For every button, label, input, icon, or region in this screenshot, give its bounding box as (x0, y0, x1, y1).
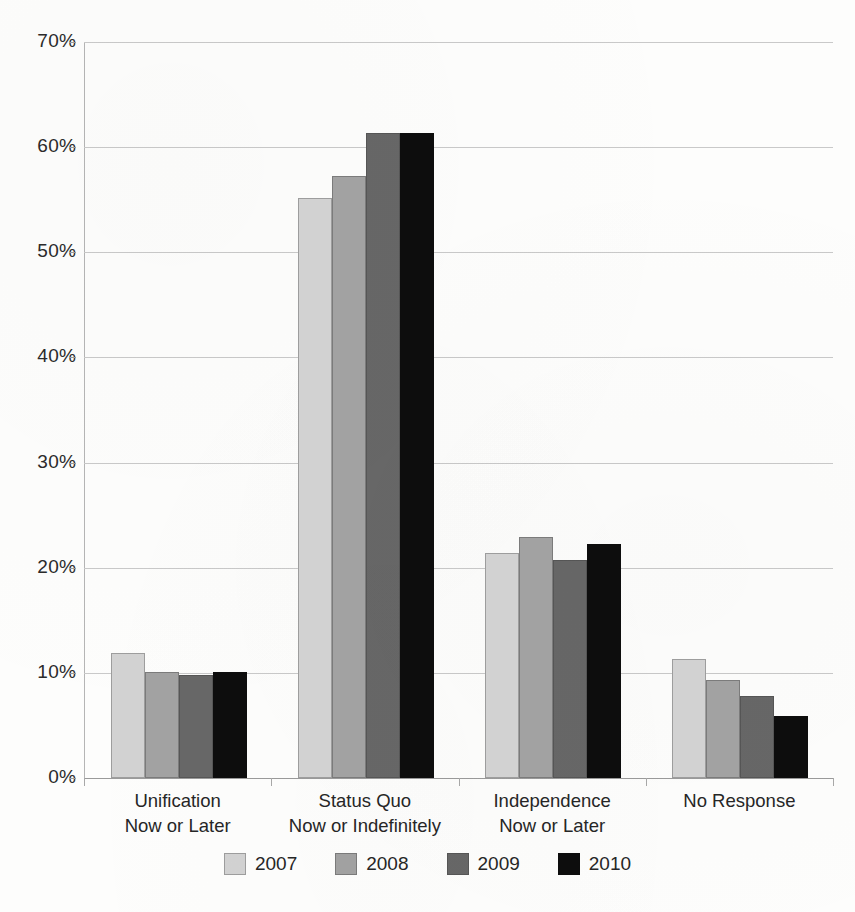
legend-label: 2007 (255, 853, 297, 875)
y-tick-label: 70% (6, 30, 76, 52)
legend: 2007200820092010 (0, 853, 855, 875)
category-tick (271, 778, 272, 786)
category-label-line1: No Response (646, 788, 833, 813)
y-tick-mark (69, 463, 76, 464)
y-tick-mark (69, 778, 76, 779)
y-tick-mark (69, 673, 76, 674)
category-label: IndependenceNow or Later (459, 788, 646, 838)
category-label-line2: Now or Later (459, 813, 646, 838)
category-tick (646, 778, 647, 786)
bar-2009-cat2 (553, 560, 587, 778)
legend-item-2008[interactable]: 2008 (335, 853, 408, 875)
legend-item-2007[interactable]: 2007 (224, 853, 297, 875)
bar-2008-cat0 (145, 672, 179, 778)
y-tick-label: 40% (6, 345, 76, 367)
y-tick-label: 0% (6, 766, 76, 788)
bar-2008-cat3 (706, 680, 740, 778)
category-tick (459, 778, 460, 786)
y-tick-mark (69, 357, 76, 358)
category-label-line2: Now or Later (84, 813, 271, 838)
bar-2007-cat1 (298, 198, 332, 778)
legend-label: 2008 (366, 853, 408, 875)
bar-2007-cat2 (485, 553, 519, 778)
category-label-line1: Status Quo (271, 788, 458, 813)
bar-2007-cat0 (111, 653, 145, 778)
bar-2009-cat0 (179, 675, 213, 778)
legend-label: 2009 (478, 853, 520, 875)
y-tick-label: 30% (6, 451, 76, 473)
chart-page: 70%60%50%40%30%20%10%0% UnificationNow o… (0, 0, 855, 912)
bar-group (672, 42, 808, 778)
category-label: No Response (646, 788, 833, 813)
category-label: UnificationNow or Later (84, 788, 271, 838)
bar-group (485, 42, 621, 778)
y-tick-label: 60% (6, 135, 76, 157)
category-tick (84, 778, 85, 786)
y-tick-mark (69, 147, 76, 148)
legend-label: 2010 (589, 853, 631, 875)
legend-item-2010[interactable]: 2010 (558, 853, 631, 875)
bar-2010-cat0 (213, 672, 247, 778)
y-tick-label: 50% (6, 240, 76, 262)
legend-swatch-icon (558, 853, 580, 875)
category-label-line2: Now or Indefinitely (271, 813, 458, 838)
category-tick (833, 778, 834, 786)
bar-2009-cat3 (740, 696, 774, 778)
bar-2008-cat1 (332, 176, 366, 778)
y-tick-label: 20% (6, 556, 76, 578)
y-tick-mark (69, 42, 76, 43)
bar-2007-cat3 (672, 659, 706, 778)
y-tick-label: 10% (6, 661, 76, 683)
bar-2008-cat2 (519, 537, 553, 778)
legend-swatch-icon (224, 853, 246, 875)
legend-swatch-icon (447, 853, 469, 875)
bar-group (111, 42, 247, 778)
legend-item-2009[interactable]: 2009 (447, 853, 520, 875)
bar-2009-cat1 (366, 133, 400, 778)
plot-area (84, 42, 833, 778)
category-label-line1: Unification (84, 788, 271, 813)
y-tick-mark (69, 252, 76, 253)
bar-2010-cat1 (400, 133, 434, 778)
bar-2010-cat3 (774, 716, 808, 778)
category-label-line1: Independence (459, 788, 646, 813)
legend-swatch-icon (335, 853, 357, 875)
y-axis-tick-labels: 70%60%50%40%30%20%10%0% (0, 42, 76, 778)
category-label: Status QuoNow or Indefinitely (271, 788, 458, 838)
bar-group (298, 42, 434, 778)
y-tick-mark (69, 568, 76, 569)
bar-2010-cat2 (587, 544, 621, 778)
